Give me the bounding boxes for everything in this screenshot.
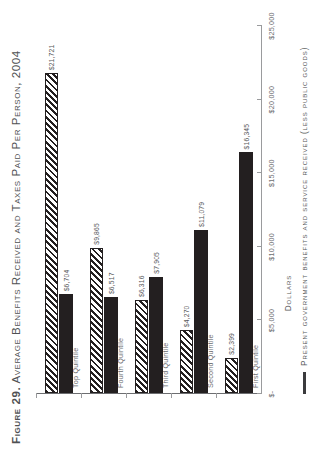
value-axis-tick xyxy=(257,172,262,173)
value-axis-tick-label: $- xyxy=(267,391,276,398)
bar-value-label: $6,517 xyxy=(107,272,114,294)
bar xyxy=(239,152,253,393)
value-axis-tick xyxy=(257,25,262,26)
value-axis-tick xyxy=(257,246,262,247)
category-axis-tick xyxy=(216,393,217,398)
category-axis-tick xyxy=(81,393,82,398)
value-axis-title-text: Dollars xyxy=(284,275,293,312)
value-axis-line xyxy=(261,26,262,394)
bar xyxy=(59,294,73,393)
bar-value-label: $6,704 xyxy=(62,270,69,292)
bar xyxy=(45,73,59,393)
value-axis-tick-label: $5,000 xyxy=(267,309,276,332)
chart-plot-inner: $-$5,000$10,000$15,000$20,000$25,000 Fir… xyxy=(36,26,261,394)
bar-value-label: $16,345 xyxy=(242,124,249,150)
bar xyxy=(180,330,194,393)
value-axis-tick xyxy=(257,99,262,100)
category-axis-tick xyxy=(36,393,37,398)
bar xyxy=(194,230,208,393)
figure-title: Figure 29. Average Benefits Received and… xyxy=(9,4,22,444)
bar-value-label: $4,270 xyxy=(183,305,190,327)
legend-line-swatch xyxy=(303,372,306,394)
value-axis-title: Dollars xyxy=(284,0,293,454)
value-axis-tick xyxy=(257,319,262,320)
value-axis-tick-label: $10,000 xyxy=(267,233,276,261)
bar-value-label: $2,399 xyxy=(228,333,235,355)
bar xyxy=(149,277,163,393)
category-axis-line xyxy=(36,393,261,394)
bar-value-label: $11,079 xyxy=(197,202,204,227)
bar-value-label: $7,905 xyxy=(152,252,159,274)
chart-plot-area: $-$5,000$10,000$15,000$20,000$25,000 Fir… xyxy=(36,26,261,394)
figure-number: Figure 29. xyxy=(9,387,22,444)
bar-value-label: $6,316 xyxy=(138,275,145,297)
bar xyxy=(90,248,104,393)
bar-value-label: $21,721 xyxy=(48,45,55,71)
value-axis-tick-label: $20,000 xyxy=(267,86,276,114)
value-axis-tick-label: $25,000 xyxy=(267,12,276,40)
bar xyxy=(135,300,149,393)
chart-legend: Present government benefits and service … xyxy=(300,47,309,394)
category-axis-tick xyxy=(171,393,172,398)
rotated-figure-frame: Figure 29. Average Benefits Received and… xyxy=(0,0,324,454)
bar xyxy=(225,358,239,393)
value-axis-tick-label: $15,000 xyxy=(267,159,276,187)
bar-value-label: $9,865 xyxy=(93,223,100,245)
legend-entry-label: Present government benefits and service … xyxy=(300,47,309,366)
category-axis-tick xyxy=(126,393,127,398)
figure-title-text: Average Benefits Received and Taxes Paid… xyxy=(9,50,22,383)
bar xyxy=(104,297,118,393)
value-axis-tick xyxy=(257,393,262,394)
